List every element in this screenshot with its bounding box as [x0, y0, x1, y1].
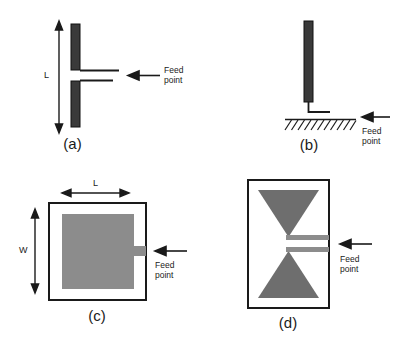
feed-point-label-line-1: Feed — [340, 254, 359, 264]
feed-point-label-line-2: point — [362, 136, 381, 146]
feed-point-label-line-1: Feed — [155, 260, 174, 270]
panel-c-patch: L W Feed point (c) — [0, 175, 200, 350]
panel-a-caption: (a) — [0, 135, 145, 152]
dipole-arm-upper — [71, 24, 80, 70]
dimension-label-l: L — [93, 178, 98, 188]
dipole-arm-lower — [71, 81, 80, 127]
panel-c-caption: (c) — [66, 307, 128, 324]
panel-a-dipole: L Feed point (a) — [0, 0, 200, 175]
feed-point-label: Feed point — [362, 126, 381, 146]
feed-line-upper — [286, 235, 329, 240]
dimension-label-l: L — [44, 70, 49, 80]
monopole-radiator — [304, 21, 313, 102]
feed-point-label: Feed point — [340, 254, 359, 274]
patch-feed-stub — [134, 246, 146, 256]
patch-metal — [62, 214, 134, 289]
antenna-figure: L Feed point (a) — [0, 0, 399, 350]
feed-point-label: Feed point — [164, 65, 183, 85]
panel-d-caption: (d) — [257, 314, 319, 331]
dimension-arrow-w — [31, 209, 38, 293]
feed-point-arrow — [128, 71, 160, 80]
panel-b-monopole: Feed point (b) — [200, 0, 399, 175]
feed-point-label: Feed point — [155, 260, 174, 280]
ground-plane-hatch — [285, 120, 356, 130]
feed-point-label-line-2: point — [164, 75, 183, 85]
feed-point-arrow — [155, 247, 187, 256]
dimension-arrow-l — [62, 189, 129, 196]
feed-stub — [309, 102, 331, 112]
feed-line-lower — [286, 247, 329, 252]
feed-point-arrow — [340, 240, 372, 249]
panel-d-bowtie: Feed point (d) — [200, 175, 399, 350]
feed-point-label-line-2: point — [340, 264, 359, 274]
feed-point-label-line-1: Feed — [164, 65, 183, 75]
dimension-arrow-l — [55, 21, 62, 133]
feed-point-label-line-1: Feed — [362, 126, 381, 136]
feed-point-arrow — [362, 113, 390, 122]
dimension-label-w: W — [19, 245, 28, 255]
feed-point-label-line-2: point — [155, 270, 174, 280]
panel-b-caption: (b) — [278, 136, 340, 153]
